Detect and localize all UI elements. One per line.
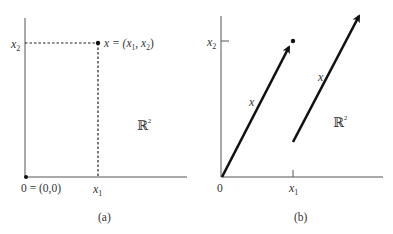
origin-label: 0 = (0,0) — [21, 182, 61, 195]
space-label-r2: ℝ2 — [137, 117, 152, 133]
vector-from-origin — [222, 47, 289, 177]
point-x — [96, 41, 100, 45]
origin-point — [24, 175, 28, 179]
caption-a: (a) — [98, 211, 111, 224]
panel-b: x2 x1 0 x x ℝ2 (b) — [206, 16, 383, 224]
origin-label: 0 — [217, 182, 223, 194]
vector-label-2: x — [317, 70, 324, 84]
x-tick-label-x1: x1 — [288, 181, 298, 197]
point-label: x = (x1, x2) — [103, 37, 154, 52]
space-label-r2: ℝ2 — [333, 114, 348, 130]
vector-label-1: x — [248, 95, 255, 109]
y-tick-label-x2: x2 — [10, 37, 20, 53]
vector-diagram: x2 x1 0 = (0,0) x = (x1, x2) ℝ2 (a) x2 x… — [0, 0, 393, 234]
y-tick-label-x2: x2 — [206, 35, 216, 51]
panel-a: x2 x1 0 = (0,0) x = (x1, x2) ℝ2 (a) — [10, 18, 187, 224]
vector-translated — [293, 16, 359, 142]
point-x — [291, 39, 295, 43]
caption-b: (b) — [294, 211, 308, 224]
x-tick-label-x1: x1 — [92, 182, 102, 198]
